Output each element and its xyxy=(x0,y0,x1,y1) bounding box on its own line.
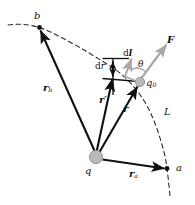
charge-q-dot xyxy=(89,150,102,163)
label-force-F: F xyxy=(167,35,174,45)
label-vector-r-prime: r′ xyxy=(99,95,107,105)
label-path-L: L xyxy=(164,107,171,117)
label-vector-rb: rb xyxy=(43,83,52,93)
label-element-dl: dl xyxy=(123,49,132,58)
label-vector-r-prime-mark: ′ xyxy=(104,94,107,105)
label-element-dr: dr xyxy=(95,62,105,71)
point-a-dot xyxy=(165,166,170,171)
label-vector-ra: ra xyxy=(129,169,138,179)
label-element-dr-r: r xyxy=(101,61,105,71)
label-vector-r: r xyxy=(123,104,128,114)
diagram-canvas xyxy=(0,0,195,205)
label-element-dl-vec: l xyxy=(129,48,132,58)
physics-diagram-figure: b a q q0 rb ra r′ r dl dr F θ L xyxy=(0,0,195,205)
vector-arrow-F xyxy=(140,45,167,81)
point-b-dot xyxy=(37,25,42,30)
vector-arrow-r-prime xyxy=(97,79,113,153)
label-angle-theta: θ xyxy=(138,60,143,69)
label-point-a: a xyxy=(176,163,182,173)
label-source-charge-q: q xyxy=(85,166,91,176)
label-test-charge-q0-sub: 0 xyxy=(152,81,156,88)
charge-q0-dot xyxy=(135,77,144,86)
label-point-b: b xyxy=(34,11,40,21)
label-vector-ra-sub: a xyxy=(134,172,138,179)
label-test-charge-q0: q0 xyxy=(146,78,156,88)
vector-arrow-dl xyxy=(125,59,132,79)
label-vector-rb-sub: b xyxy=(48,86,52,93)
